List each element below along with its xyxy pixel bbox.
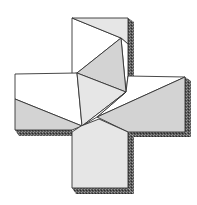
cross-svg	[0, 0, 197, 205]
bottom-pentagon	[72, 119, 128, 188]
cross-puzzle-diagram: Greek cross dissection puzzle	[0, 0, 197, 205]
